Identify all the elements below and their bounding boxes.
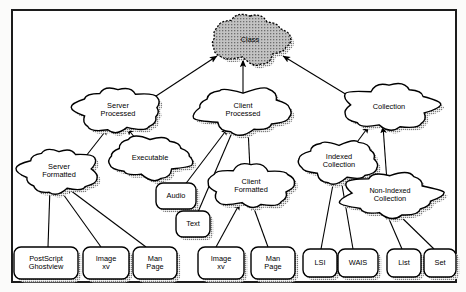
diagram-svg: ClassServerProcessedClientProcessedColle… — [0, 0, 466, 292]
node-man-page-right[interactable]: ManPage — [251, 247, 298, 282]
edge-server-processed-to-class — [150, 56, 217, 100]
node-image-xv-left[interactable]: Imagexv — [83, 247, 132, 282]
node-label-lsi: LSI — [314, 258, 325, 267]
node-postscript-ghostview[interactable]: PostScriptGhostview — [14, 247, 81, 282]
node-non-indexed-collection[interactable]: Non-IndexedCollection — [339, 173, 447, 222]
node-label-man-page-right: Page — [264, 262, 281, 271]
node-label-indexed-collection: Collection — [323, 160, 355, 169]
node-server-processed[interactable]: ServerProcessed — [71, 88, 162, 136]
node-label-wais: WAIS — [349, 258, 368, 267]
node-text[interactable]: Text — [176, 211, 213, 240]
node-label-class: Class — [241, 35, 260, 44]
node-audio[interactable]: Audio — [156, 183, 199, 212]
edge-man-page-left-to-server-formatted — [66, 187, 146, 247]
node-label-image-xv-left: xv — [102, 262, 110, 271]
node-label-server-formatted: Formatted — [42, 170, 76, 179]
edge-lsi-to-indexed-collection — [321, 179, 334, 249]
node-label-man-page-left: Page — [146, 262, 163, 271]
edge-collection-to-class — [283, 56, 352, 98]
node-collection[interactable]: Collection — [345, 83, 444, 133]
node-label-image-xv-right: xv — [217, 262, 225, 271]
node-set[interactable]: Set — [424, 249, 459, 280]
node-man-page-left[interactable]: ManPage — [133, 247, 180, 282]
node-lsi[interactable]: LSI — [303, 249, 340, 280]
edge-postscript-ghostview-to-server-formatted — [48, 187, 50, 247]
node-label-collection: Collection — [373, 102, 405, 111]
node-wais[interactable]: WAIS — [338, 249, 381, 280]
nodes-layer: ClassServerProcessedClientProcessedColle… — [14, 14, 459, 282]
node-executable[interactable]: Executable — [109, 136, 196, 184]
node-image-xv-right[interactable]: Imagexv — [198, 247, 247, 282]
node-label-non-indexed-collection: Non-Indexed — [369, 186, 410, 195]
edges-layer — [48, 56, 434, 249]
node-label-text: Text — [186, 219, 200, 228]
node-label-set: Set — [434, 258, 445, 267]
node-label-postscript-ghostview: Ghostview — [29, 262, 64, 271]
node-server-formatted[interactable]: ServerFormatted — [16, 149, 101, 197]
node-label-client-processed: Processed — [226, 109, 261, 118]
edge-image-xv-right-to-client-formatted — [216, 203, 240, 247]
node-class[interactable]: Class — [212, 14, 294, 68]
diagram-canvas: ClassServerProcessedClientProcessedColle… — [0, 0, 466, 292]
node-label-audio: Audio — [167, 191, 186, 200]
node-label-non-indexed-collection: Collection — [374, 194, 406, 203]
node-client-formatted[interactable]: ClientFormatted — [208, 164, 298, 211]
node-list[interactable]: List — [387, 249, 424, 280]
node-label-client-formatted: Formatted — [234, 185, 268, 194]
node-label-list: List — [398, 258, 410, 267]
node-client-processed[interactable]: ClientProcessed — [193, 88, 294, 139]
edge-image-xv-left-to-server-formatted — [58, 187, 101, 247]
edge-non-indexed-collection-to-collection — [383, 126, 387, 182]
node-label-executable: Executable — [132, 153, 169, 162]
node-label-server-processed: Processed — [101, 109, 136, 118]
